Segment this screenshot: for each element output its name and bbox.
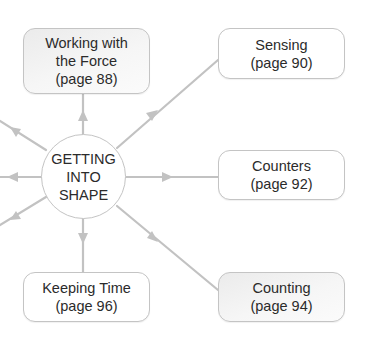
node-page-ref: (page 94) xyxy=(250,297,312,315)
node-page-ref: (page 90) xyxy=(250,54,312,72)
arrow-left-icon xyxy=(7,172,18,182)
center-label-line: GETTING xyxy=(51,150,115,168)
node-counting: Counting (page 94) xyxy=(218,272,345,322)
node-label-line: Keeping Time xyxy=(42,279,131,297)
node-keeping-time: Keeping Time (page 96) xyxy=(23,272,150,322)
arrow-up-right-icon xyxy=(146,110,158,121)
center-node-getting-into-shape: GETTING INTO SHAPE xyxy=(41,134,126,219)
node-counters: Counters (page 92) xyxy=(218,150,345,200)
node-page-ref: (page 88) xyxy=(45,70,128,88)
node-label-line: Working with xyxy=(45,34,128,52)
node-working-with-the-force: Working with the Force (page 88) xyxy=(23,28,150,94)
node-label-line: the Force xyxy=(45,52,128,70)
node-label-line: Sensing xyxy=(250,36,312,54)
arrow-up-icon xyxy=(78,110,88,121)
center-label-line: INTO xyxy=(66,168,100,186)
node-sensing: Sensing (page 90) xyxy=(218,28,345,79)
node-label-line: Counters xyxy=(250,157,312,175)
node-page-ref: (page 92) xyxy=(250,175,312,193)
node-label-line: Counting xyxy=(250,279,312,297)
node-page-ref: (page 96) xyxy=(42,297,131,315)
center-label-line: SHAPE xyxy=(59,186,108,204)
arrow-down-icon xyxy=(78,233,88,244)
arrow-right-icon xyxy=(162,172,173,182)
